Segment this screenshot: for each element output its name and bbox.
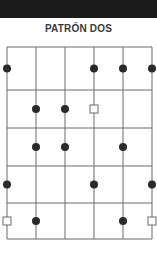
note-dot-icon xyxy=(32,217,40,225)
note-dot-icon xyxy=(3,65,11,73)
fretboard-diagram xyxy=(0,0,157,258)
note-dot-icon xyxy=(61,105,69,113)
note-dot-icon xyxy=(90,181,98,189)
note-dot-icon xyxy=(90,65,98,73)
note-dot-icon xyxy=(119,217,127,225)
root-square-icon xyxy=(148,217,156,225)
note-dot-icon xyxy=(148,65,156,73)
note-dot-icon xyxy=(61,143,69,151)
note-dot-icon xyxy=(119,65,127,73)
note-dot-icon xyxy=(32,105,40,113)
note-dot-icon xyxy=(148,181,156,189)
note-dot-icon xyxy=(32,143,40,151)
root-square-icon xyxy=(3,217,11,225)
note-dot-icon xyxy=(3,181,11,189)
root-square-icon xyxy=(90,105,98,113)
note-dot-icon xyxy=(119,143,127,151)
